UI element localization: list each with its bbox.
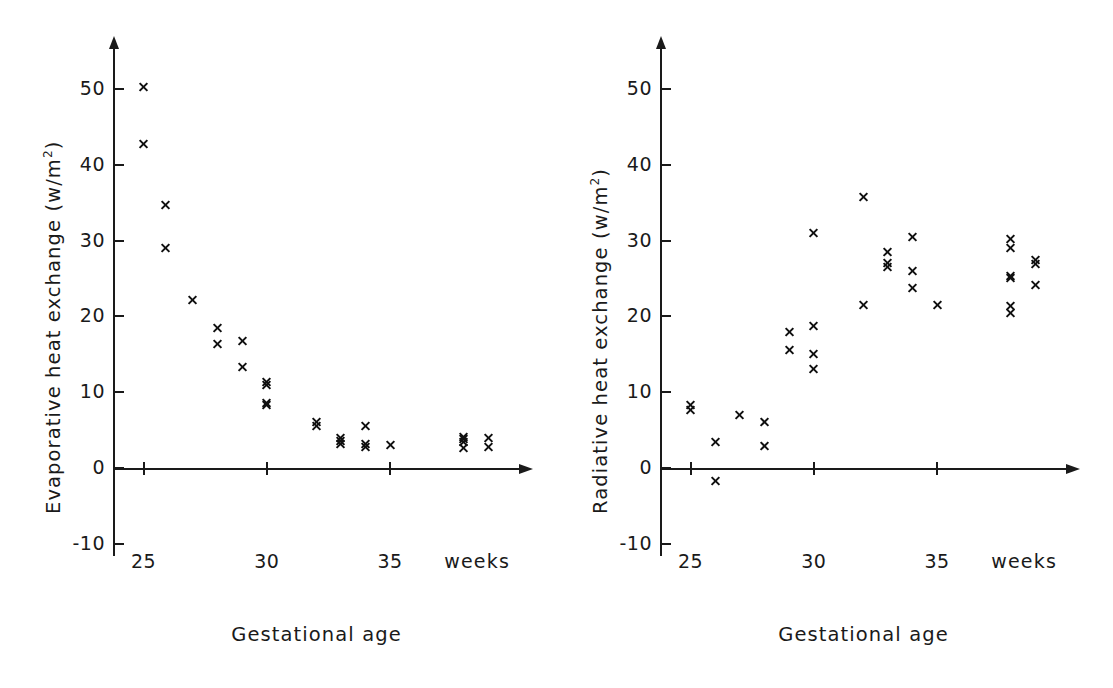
plot-area-evaporative: -1001020304050253035weeksGestational age… bbox=[0, 0, 556, 688]
y-tick-50 bbox=[662, 88, 671, 90]
y-tick-10 bbox=[662, 391, 671, 393]
data-point bbox=[236, 335, 248, 347]
x-tick-label-35: 35 bbox=[907, 550, 967, 572]
data-point bbox=[685, 404, 697, 416]
plot-area-radiative: -1001020304050253035weeksGestational age… bbox=[547, 0, 1103, 688]
data-point bbox=[359, 442, 371, 454]
data-point bbox=[138, 81, 150, 93]
data-point bbox=[783, 326, 795, 338]
y-axis-title-tail: ) bbox=[42, 141, 65, 150]
y-tick-50 bbox=[115, 88, 124, 90]
data-point bbox=[211, 338, 223, 350]
data-point bbox=[783, 345, 795, 357]
x-axis-title: Gestational age bbox=[73, 623, 560, 646]
data-point bbox=[931, 299, 943, 311]
data-point bbox=[384, 439, 396, 451]
data-point bbox=[236, 361, 248, 373]
y-tick-label--10: -10 bbox=[47, 532, 105, 554]
data-point bbox=[709, 436, 721, 448]
data-point bbox=[758, 416, 770, 428]
data-point bbox=[808, 363, 820, 375]
x-tick-label-30: 30 bbox=[237, 550, 297, 572]
x-axis-unit-label: weeks bbox=[444, 550, 510, 572]
x-axis-unit-label: weeks bbox=[991, 550, 1057, 572]
data-point bbox=[857, 191, 869, 203]
x-tick-label-25: 25 bbox=[661, 550, 721, 572]
data-point bbox=[882, 246, 894, 258]
y-axis-title-text: Evaporative heat exchange (w/m bbox=[42, 158, 65, 514]
y-tick-0 bbox=[115, 467, 124, 469]
data-point bbox=[160, 199, 172, 211]
y-axis-title-exponent: 2 bbox=[41, 149, 55, 158]
y-tick-40 bbox=[662, 164, 671, 166]
y-tick-30 bbox=[662, 240, 671, 242]
panel-radiative: -1001020304050253035weeksGestational age… bbox=[547, 0, 1103, 688]
data-point bbox=[335, 438, 347, 450]
data-point bbox=[211, 322, 223, 334]
x-tick-35 bbox=[936, 462, 938, 475]
y-tick-40 bbox=[115, 164, 124, 166]
data-point bbox=[808, 320, 820, 332]
data-point bbox=[1005, 307, 1017, 319]
data-point bbox=[1030, 258, 1042, 270]
y-axis-line bbox=[660, 48, 662, 556]
x-tick-label-25: 25 bbox=[114, 550, 174, 572]
data-point bbox=[261, 379, 273, 391]
x-tick-30 bbox=[813, 462, 815, 475]
x-tick-25 bbox=[690, 462, 692, 475]
y-axis-title-exponent: 2 bbox=[588, 177, 602, 186]
y-tick-30 bbox=[115, 240, 124, 242]
y-axis-title: Radiative heat exchange (w/m2) bbox=[588, 168, 612, 514]
figure-root: -1001020304050253035weeksGestational age… bbox=[0, 0, 1113, 688]
data-point bbox=[483, 442, 495, 454]
data-point bbox=[458, 442, 470, 454]
y-axis-arrow-icon bbox=[109, 36, 119, 49]
data-point bbox=[160, 242, 172, 254]
data-point bbox=[1030, 279, 1042, 291]
x-tick-35 bbox=[389, 462, 391, 475]
x-axis-arrow-icon bbox=[519, 464, 533, 474]
x-axis-line bbox=[113, 468, 520, 470]
data-point bbox=[808, 348, 820, 360]
x-axis-line bbox=[660, 468, 1067, 470]
data-point bbox=[709, 475, 721, 487]
data-point bbox=[734, 409, 746, 421]
data-point bbox=[261, 399, 273, 411]
x-axis-arrow-icon bbox=[1066, 464, 1080, 474]
data-point bbox=[808, 227, 820, 239]
data-point bbox=[359, 420, 371, 432]
data-point bbox=[882, 261, 894, 273]
data-point bbox=[906, 231, 918, 243]
data-point bbox=[906, 282, 918, 294]
y-tick--10 bbox=[662, 543, 671, 545]
y-tick-label-50: 50 bbox=[594, 77, 652, 99]
x-tick-25 bbox=[143, 462, 145, 475]
y-tick-label--10: -10 bbox=[594, 532, 652, 554]
y-tick-label-50: 50 bbox=[47, 77, 105, 99]
panel-evaporative: -1001020304050253035weeksGestational age… bbox=[0, 0, 556, 688]
data-point bbox=[1005, 242, 1017, 254]
y-tick-10 bbox=[115, 391, 124, 393]
data-point bbox=[310, 420, 322, 432]
y-tick-20 bbox=[115, 315, 124, 317]
x-tick-label-35: 35 bbox=[360, 550, 420, 572]
y-tick-20 bbox=[662, 315, 671, 317]
x-tick-30 bbox=[266, 462, 268, 475]
data-point bbox=[758, 440, 770, 452]
data-point bbox=[906, 265, 918, 277]
y-axis-title-text: Radiative heat exchange (w/m bbox=[589, 186, 612, 515]
y-tick-0 bbox=[662, 467, 671, 469]
data-point bbox=[857, 299, 869, 311]
y-axis-title-tail: ) bbox=[589, 168, 612, 177]
x-tick-label-30: 30 bbox=[784, 550, 844, 572]
data-point bbox=[138, 138, 150, 150]
y-axis-line bbox=[113, 48, 115, 556]
data-point bbox=[1005, 273, 1017, 285]
y-axis-arrow-icon bbox=[656, 36, 666, 49]
y-tick--10 bbox=[115, 543, 124, 545]
x-axis-title: Gestational age bbox=[620, 623, 1107, 646]
data-point bbox=[187, 294, 199, 306]
y-axis-title: Evaporative heat exchange (w/m2) bbox=[41, 141, 65, 514]
